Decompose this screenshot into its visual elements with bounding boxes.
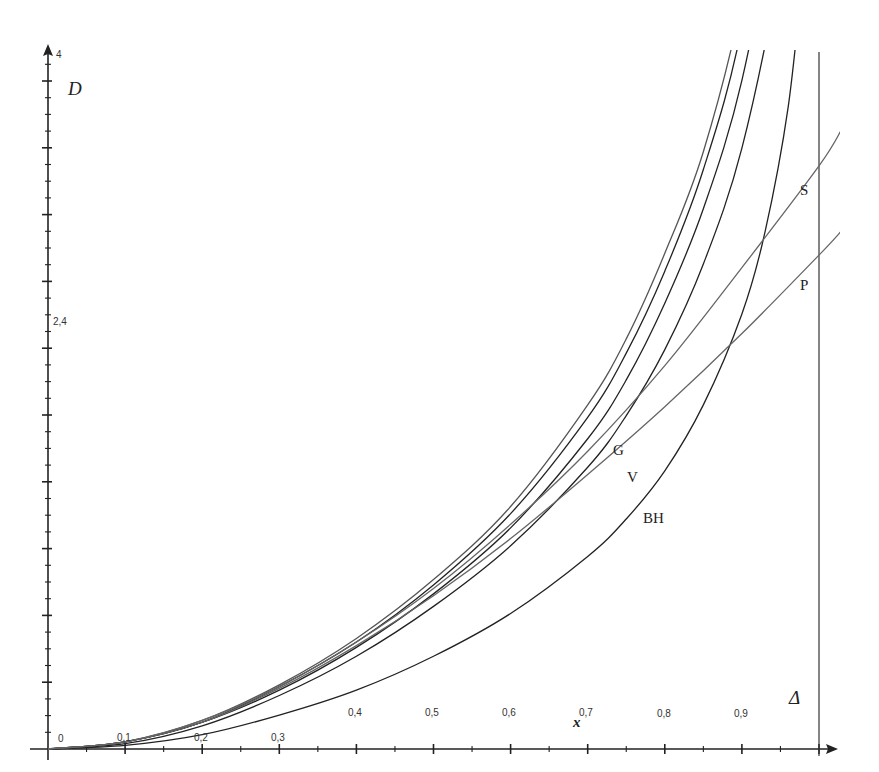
curve-g	[48, 0, 780, 749]
x-tick-0-7: 0,7	[579, 707, 593, 718]
curve-label-s: S	[800, 182, 808, 198]
curve-bh	[48, 0, 804, 749]
y-tick-4: 4	[56, 49, 62, 60]
curve-label-p: P	[800, 277, 808, 293]
asymptote-label: Δ	[788, 687, 800, 708]
curve-p	[48, 230, 842, 749]
curves	[48, 0, 842, 749]
x-tick-0-6: 0,6	[502, 707, 516, 718]
curve-label-g: G	[613, 442, 624, 458]
origin-label: 0	[58, 733, 64, 744]
curve-s	[48, 129, 842, 749]
x-tick-0-1: 0,1	[117, 732, 131, 743]
axis-ticks	[42, 64, 819, 754]
x-tick-0-8: 0,8	[657, 708, 671, 719]
curve-curve-2	[48, 0, 780, 749]
x-tick-0-9: 0,9	[734, 708, 748, 719]
x-tick-0-3: 0,3	[271, 732, 285, 743]
curve-v	[48, 0, 796, 749]
x-tick-0-5: 0,5	[425, 707, 439, 718]
y-tick-2-4: 2,4	[53, 316, 67, 327]
chart: D x Δ 4 2,4 0 0,1 0,2 0,3 0,4 0,5 0,6 0,…	[0, 0, 879, 772]
y-axis-title: D	[67, 78, 82, 99]
curve-label-v: V	[627, 469, 638, 485]
curve-label-bh: BH	[643, 510, 664, 526]
x-tick-0-2: 0,2	[194, 732, 208, 743]
x-tick-0-4: 0,4	[348, 707, 362, 718]
curve-curve-4	[48, 0, 804, 749]
